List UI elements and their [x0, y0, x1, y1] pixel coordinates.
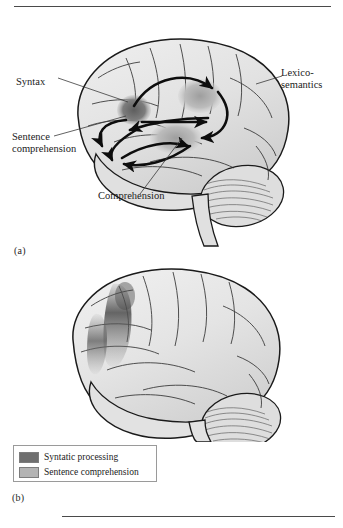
brain-outline-b: [73, 269, 286, 442]
comprehension-patch-a: [150, 122, 202, 154]
panel-a-letter: (a): [14, 245, 26, 256]
bottom-rule: [62, 516, 335, 517]
legend-label-syntactic-processing: Syntatic processing: [44, 452, 118, 462]
callout-lexico-semantics: Lexico- semantics: [281, 67, 322, 91]
top-rule: [14, 6, 331, 7]
legend-box: Syntatic processing Sentence comprehensi…: [13, 445, 157, 482]
legend-item-sentence-comprehension: Sentence comprehension: [19, 465, 151, 479]
figure-page: Syntax Sentence comprehension Lexico- se…: [0, 0, 343, 528]
lexico-patch-a: [178, 79, 222, 113]
legend-swatch-sentence-comprehension: [19, 467, 39, 478]
callout-syntax: Syntax: [16, 76, 45, 88]
callout-sentence-comprehension: Sentence comprehension: [12, 131, 76, 155]
panel-b-letter: (b): [12, 492, 24, 503]
brain-diagram-panel-b: [55, 262, 343, 442]
legend-item-syntactic-processing: Syntatic processing: [19, 450, 151, 464]
brain-outline-a: [78, 39, 289, 246]
legend-label-sentence-comprehension: Sentence comprehension: [44, 467, 139, 477]
callout-comprehension: Comprehension: [98, 190, 165, 202]
legend-swatch-syntactic-processing: [19, 452, 39, 463]
